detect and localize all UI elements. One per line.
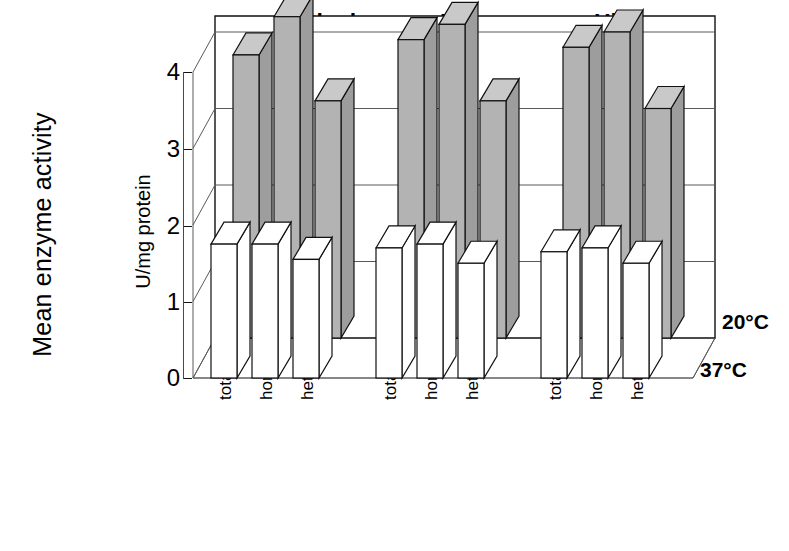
bar-front-0 <box>211 222 250 378</box>
bar-front-7 <box>582 226 621 378</box>
bar-front-1 <box>252 222 291 378</box>
chart-root: Mean enzyme activity U/mg protein 4 3 2 … <box>0 0 789 551</box>
bar-front-4 <box>417 222 456 378</box>
bar-front-5 <box>458 241 497 378</box>
bar-front-8 <box>623 241 662 378</box>
bar-front-2 <box>293 237 332 378</box>
plot-area <box>0 0 789 551</box>
bar-front-6 <box>541 230 580 378</box>
bar-front-3 <box>376 226 415 378</box>
